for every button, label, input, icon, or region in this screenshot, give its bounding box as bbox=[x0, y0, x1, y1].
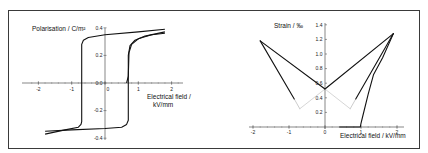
y-tick-label: 0.4 bbox=[96, 25, 103, 31]
x-tick-label: 0 bbox=[324, 129, 327, 135]
y-tick-label: 0.8 bbox=[316, 65, 323, 71]
data-segment bbox=[325, 34, 393, 89]
y-tick-label: -0.4 bbox=[94, 135, 103, 141]
x-tick-label: -1 bbox=[69, 86, 74, 92]
data-segment bbox=[350, 99, 355, 108]
y-tick-label: 1.0 bbox=[316, 51, 323, 57]
x-axis-title-line1: Electrical field / bbox=[147, 93, 191, 100]
data-segment bbox=[260, 41, 294, 99]
data-segment bbox=[356, 34, 394, 100]
x-tick-label: 2 bbox=[170, 86, 173, 92]
data-series bbox=[127, 33, 165, 83]
polarisation-chart: -2-10120.40.20.0-0.2-0.4Polarisation / C… bbox=[22, 25, 191, 141]
x-axis-title: Electrical field / kV/mm bbox=[340, 132, 406, 139]
y-tick-label: -0.2 bbox=[94, 107, 103, 113]
y-axis-title: Polarisation / C/m² bbox=[32, 25, 86, 32]
x-tick-label: -1 bbox=[287, 129, 292, 135]
y-tick-label: 0.0 bbox=[96, 80, 103, 86]
data-segment bbox=[294, 99, 299, 108]
y-tick-label: 1.2 bbox=[316, 36, 323, 42]
y-tick-label: 1.4 bbox=[316, 22, 323, 28]
x-tick-label: -2 bbox=[251, 129, 256, 135]
x-axis-title-line2: kV/mm bbox=[153, 101, 173, 108]
y-axis-title: Strain / ‰ bbox=[274, 22, 303, 29]
x-tick-label: -2 bbox=[36, 86, 41, 92]
charts-canvas: -2-10120.40.20.0-0.2-0.4Polarisation / C… bbox=[0, 0, 428, 153]
y-tick-label: 0.2 bbox=[316, 109, 323, 115]
x-tick-label: 0 bbox=[107, 86, 110, 92]
x-tick-label: 1 bbox=[137, 86, 140, 92]
strain-chart: -2-10121.41.21.00.80.60.40.2Strain / ‰El… bbox=[249, 22, 406, 139]
data-segment bbox=[325, 89, 350, 109]
y-tick-label: 0.2 bbox=[96, 52, 103, 58]
